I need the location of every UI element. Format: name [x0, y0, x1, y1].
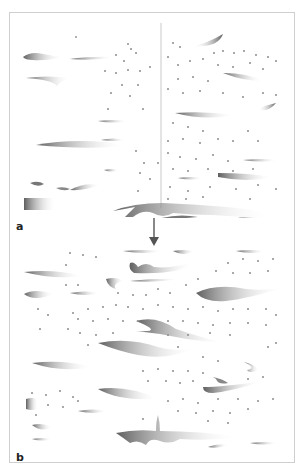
panel-b-illustration [18, 249, 286, 449]
panel-b-label: b [16, 451, 24, 464]
panel-a-label: a [16, 220, 23, 233]
panel-b: b [18, 249, 286, 449]
panel-a: a [18, 23, 286, 218]
panel-a-illustration [18, 23, 286, 218]
figure-frame: a [9, 12, 295, 463]
arrow-down-icon [147, 218, 161, 248]
